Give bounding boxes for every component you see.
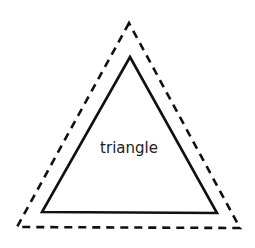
triangle-diagram: triangle	[0, 0, 255, 248]
triangle-label: triangle	[100, 139, 158, 157]
